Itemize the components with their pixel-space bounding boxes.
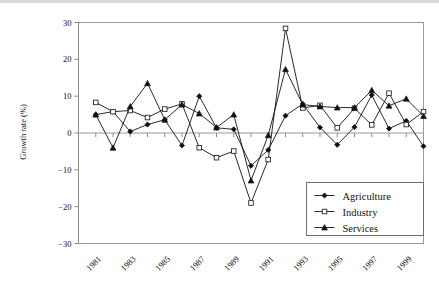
marker-filled-triangle	[231, 112, 237, 117]
x-tick-label: 1981	[84, 254, 103, 273]
y-tick-label: 30	[63, 18, 72, 28]
series-group	[93, 26, 427, 205]
series-industry	[93, 26, 425, 205]
marker-open-square	[322, 209, 327, 214]
legend-label: Services	[343, 223, 379, 234]
y-axis-ticks	[75, 23, 79, 244]
series-services	[93, 66, 427, 183]
marker-open-square	[93, 100, 98, 105]
marker-filled-triangle	[145, 80, 151, 85]
marker-filled-diamond	[197, 94, 202, 99]
x-tick-label: 1991	[257, 254, 276, 273]
marker-filled-diamond	[231, 127, 236, 132]
y-tick-label: −20	[58, 202, 71, 212]
marker-filled-diamond	[283, 113, 288, 118]
y-axis-tick-labels: −30−20−100102030	[58, 18, 71, 249]
marker-open-square	[404, 122, 409, 127]
x-tick-label: 1987	[188, 254, 207, 273]
y-tick-label: 10	[63, 91, 72, 101]
marker-open-square	[162, 107, 167, 112]
marker-open-square	[214, 155, 219, 160]
x-tick-label: 1993	[291, 254, 310, 273]
legend-label: Industry	[343, 207, 379, 218]
marker-open-square	[249, 201, 254, 206]
marker-filled-triangle	[110, 145, 116, 150]
marker-filled-triangle	[196, 111, 202, 116]
x-tick-label: 1999	[395, 254, 414, 273]
marker-filled-diamond	[145, 122, 150, 127]
y-axis-title-text: Growth rate (%)	[18, 104, 28, 160]
marker-filled-diamond	[179, 143, 184, 148]
marker-filled-triangle	[403, 96, 409, 101]
marker-open-square	[111, 109, 116, 114]
x-tick-label: 1997	[360, 254, 379, 273]
marker-filled-triangle	[248, 178, 254, 183]
marker-open-square	[266, 157, 271, 162]
marker-open-square	[197, 145, 202, 150]
marker-filled-triangle	[283, 66, 289, 71]
growth-rate-line-chart: −30−20−100102030 19811983198519871989199…	[0, 0, 439, 295]
marker-filled-diamond	[369, 92, 374, 97]
x-tick-label: 1995	[326, 254, 345, 273]
y-tick-label: −10	[58, 165, 71, 175]
legend-label: Agriculture	[343, 191, 392, 202]
x-tick-label: 1989	[222, 254, 241, 273]
x-axis-ticks	[96, 133, 407, 137]
chart-svg: −30−20−100102030 19811983198519871989199…	[0, 0, 439, 295]
marker-filled-diamond	[386, 126, 391, 131]
y-tick-label: 0	[67, 128, 71, 138]
x-tick-label: 1983	[119, 254, 138, 273]
marker-filled-triangle	[369, 87, 375, 92]
marker-filled-diamond	[421, 144, 426, 149]
marker-open-square	[145, 115, 150, 120]
marker-open-square	[335, 126, 340, 131]
marker-open-square	[231, 149, 236, 154]
marker-open-square	[387, 91, 392, 96]
x-axis-tick-labels: 1981198319851987198919911993199519971999	[84, 254, 414, 273]
y-tick-label: −30	[58, 239, 71, 249]
x-tick-label: 1985	[153, 254, 172, 273]
marker-open-square	[283, 26, 288, 31]
marker-open-square	[369, 123, 374, 128]
y-axis-title: Growth rate (%)	[18, 104, 28, 160]
chart-legend: AgricultureIndustryServices	[307, 183, 424, 236]
y-tick-label: 20	[63, 54, 72, 64]
